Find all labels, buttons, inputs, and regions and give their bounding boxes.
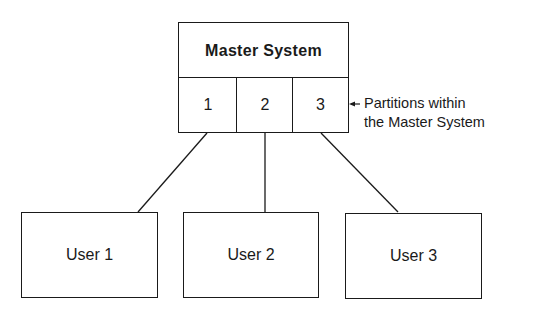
partition-label: 1 [204, 96, 213, 114]
partition-2: 2 [236, 77, 294, 133]
partition-label: 3 [316, 96, 325, 114]
user-label: User 2 [227, 246, 274, 264]
annotation-arrowhead-icon [349, 102, 355, 107]
partitions-annotation: Partitions within the Master System [364, 94, 485, 132]
connector-partition-1-user-1 [138, 133, 207, 212]
user-3-box: User 3 [345, 213, 482, 299]
partition-1: 1 [178, 77, 238, 133]
user-label: User 3 [390, 247, 437, 265]
connector-partition-3-user-3 [321, 133, 398, 212]
user-1-box: User 1 [21, 212, 158, 298]
partition-3: 3 [292, 77, 349, 133]
user-2-box: User 2 [183, 212, 319, 298]
master-system-box: Master System [178, 22, 349, 79]
annotation-line-1: Partitions within [364, 94, 485, 113]
master-system-title: Master System [205, 42, 322, 60]
user-label: User 1 [66, 246, 113, 264]
partition-label: 2 [261, 96, 270, 114]
annotation-line-2: the Master System [364, 113, 485, 132]
